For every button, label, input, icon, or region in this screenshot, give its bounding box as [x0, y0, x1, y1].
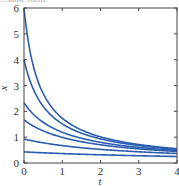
line-chart: 01234 0123456 t x — [0, 0, 179, 186]
x-tick-label: 3 — [136, 165, 142, 177]
curve-group — [24, 8, 177, 156]
x-tick-label: 1 — [60, 165, 66, 177]
y-axis-label: x — [0, 85, 9, 91]
y-tick-label: 5 — [14, 28, 20, 40]
y-tick-label: 2 — [14, 105, 20, 117]
y-tick-label: 4 — [14, 54, 20, 66]
curve-1 — [24, 60, 177, 150]
plot-frame — [24, 8, 177, 163]
curve-0 — [24, 8, 177, 149]
x-tick-label: 4 — [174, 165, 179, 177]
y-tick-label: 1 — [14, 131, 20, 143]
y-tick-label: 0 — [14, 157, 20, 169]
x-tick-label: 0 — [21, 165, 27, 177]
y-tick-label: 3 — [14, 80, 20, 92]
y-tick-label: 6 — [14, 2, 20, 14]
x-axis-ticks: 01234 — [21, 8, 179, 177]
